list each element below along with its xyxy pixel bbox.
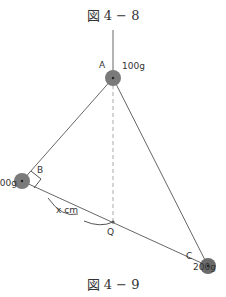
label-c: C [186,251,192,261]
side-ab [22,78,113,181]
distance-label: x cm [56,205,78,215]
mass-a: 100g [122,61,145,71]
label-b: B [37,165,43,175]
triangle-diagram: A 100g B 200g x cm Q C 200g [0,0,226,297]
distance-arc-right [84,221,113,225]
side-bc [22,181,208,266]
point-q [111,220,114,223]
figure-caption-bottom: 図 4 − 9 [0,274,226,293]
mass-c: 200g [193,262,216,272]
mass-b: 200g [0,178,17,188]
label-a: A [99,60,106,70]
side-ac [113,78,208,266]
label-q: Q [107,227,114,237]
